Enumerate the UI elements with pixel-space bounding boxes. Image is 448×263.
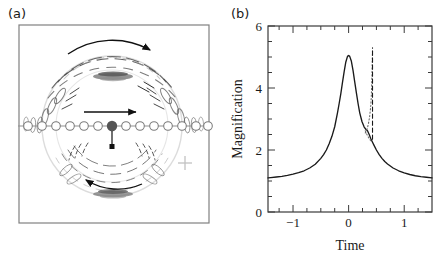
panel-a-diagram (18, 24, 210, 224)
y-tick-label: 4 (256, 81, 263, 96)
panel-label-a: (a) (8, 6, 26, 21)
y-tick-label: 2 (256, 143, 263, 158)
chart-series (268, 48, 432, 178)
source-circle (80, 122, 89, 131)
source-circle (38, 122, 47, 131)
source-circle (150, 122, 159, 131)
source-circle (192, 122, 201, 131)
x-axis-title: Time (335, 238, 364, 253)
y-tick-label: 0 (256, 205, 263, 220)
x-tick-label: −1 (286, 215, 300, 230)
magnification-chart-svg: −1010246 Time Magnification (226, 18, 444, 258)
caustic-crossing-dotted-branch (365, 51, 372, 133)
source-circle (122, 122, 131, 131)
source-circle (136, 122, 145, 131)
y-tick-label: 6 (256, 19, 263, 34)
axis-ticks (268, 26, 432, 212)
x-tick-label: 1 (401, 215, 408, 230)
source-circle (204, 122, 213, 131)
magnification-light-curve (268, 55, 432, 177)
figure-container: (a) (b) (0, 0, 448, 263)
y-axis-title: Magnification (230, 79, 245, 158)
source-circle (52, 122, 61, 131)
lens-diagram-svg (18, 24, 210, 224)
source-circle (164, 122, 173, 131)
source-circle (24, 122, 33, 131)
axis-tick-labels: −1010246 (256, 19, 408, 231)
panel-b-chart: −1010246 Time Magnification (226, 18, 444, 258)
plot-frame (268, 26, 432, 212)
lens-center-dot (107, 121, 117, 131)
source-circle (178, 122, 187, 131)
source-circle (66, 122, 75, 131)
x-tick-label: 0 (345, 215, 352, 230)
center-stem-square (110, 144, 115, 149)
source-circle (94, 122, 103, 131)
